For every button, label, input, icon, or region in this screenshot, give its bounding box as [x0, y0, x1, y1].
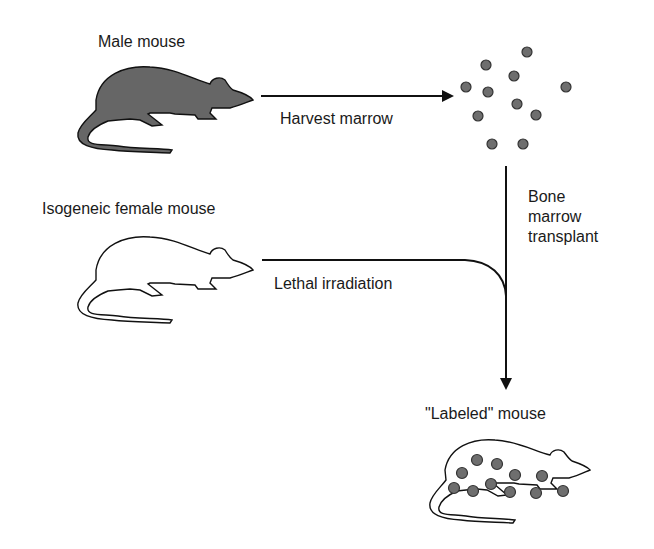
marrow-cells — [461, 47, 571, 149]
marrow-cell — [461, 82, 471, 92]
labeled-cell-spot — [537, 471, 548, 482]
harvest-arrow — [261, 90, 454, 102]
labeled-mouse-label: "Labeled" mouse — [425, 404, 546, 423]
labeled-cell-spot — [486, 479, 497, 490]
marrow-cell — [518, 139, 528, 149]
marrow-cell — [561, 82, 571, 92]
marrow-cell — [531, 110, 541, 120]
lethal-irradiation-label: Lethal irradiation — [274, 274, 392, 293]
labeled-cell-spot — [449, 483, 460, 494]
labeled-cell-spot — [558, 486, 569, 497]
female-mouse-label: Isogeneic female mouse — [42, 199, 215, 218]
harvest-marrow-label: Harvest marrow — [280, 109, 393, 128]
labeled-cell-spot — [510, 470, 521, 481]
labeled-cell-spot — [468, 486, 479, 497]
male-mouse-icon — [78, 67, 253, 153]
marrow-cell — [509, 71, 519, 81]
labeled-cell-spot — [472, 455, 483, 466]
marrow-cell — [487, 139, 497, 149]
female-mouse-icon — [78, 237, 253, 323]
bone-marrow-transplant-label: Bone marrow transplant — [528, 187, 598, 247]
marrow-cell — [483, 87, 493, 97]
marrow-cell — [512, 99, 522, 109]
labeled-cell-spot — [531, 488, 542, 499]
labeled-cell-spot — [457, 468, 468, 479]
male-mouse-label: Male mouse — [98, 32, 185, 51]
labeled-cell-spot — [492, 459, 503, 470]
marrow-cell — [473, 111, 483, 121]
marrow-cell — [522, 47, 532, 57]
labeled-mouse-icon — [430, 440, 590, 523]
marrow-cell — [481, 60, 491, 70]
labeled-cell-spot — [505, 487, 516, 498]
